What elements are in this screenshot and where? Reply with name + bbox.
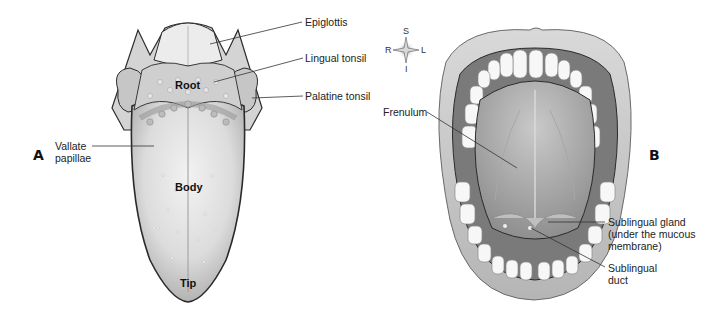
region-label-tip: Tip: [180, 277, 196, 289]
label-sublingual-duct-line2: duct: [608, 274, 657, 286]
anatomy-figure: A B Root Body Tip Epiglottis Lingual ton…: [0, 0, 701, 318]
panel-letter-a: A: [33, 147, 44, 163]
illustration-canvas: [0, 0, 701, 318]
label-palatine-tonsil: Palatine tonsil: [305, 90, 370, 102]
compass-right: R: [385, 45, 392, 55]
label-sublingual-gland-line3: membrane): [608, 240, 696, 252]
compass-rose: [393, 37, 419, 63]
compass-left: L: [421, 45, 426, 55]
label-vallate-papillae: Vallate papillae: [55, 140, 91, 164]
compass-superior: S: [403, 26, 409, 36]
label-epiglottis: Epiglottis: [305, 16, 348, 28]
label-vallate-papillae-line2: papillae: [55, 152, 91, 164]
label-sublingual-duct-line1: Sublingual: [608, 262, 657, 274]
open-mouth-illustration: [439, 28, 631, 300]
region-label-body: Body: [175, 181, 203, 193]
label-sublingual-gland: Sublingual gland (under the mucous membr…: [608, 216, 696, 252]
label-sublingual-gland-line1: Sublingual gland: [608, 216, 696, 228]
compass-inferior: I: [405, 64, 408, 74]
label-vallate-papillae-line1: Vallate: [55, 140, 91, 152]
label-lingual-tonsil: Lingual tonsil: [305, 52, 366, 64]
tongue-illustration: [112, 23, 262, 302]
label-frenulum: Frenulum: [383, 106, 427, 118]
panel-letter-b: B: [649, 147, 660, 163]
label-sublingual-duct: Sublingual duct: [608, 262, 657, 286]
region-label-root: Root: [175, 79, 200, 91]
label-sublingual-gland-line2: (under the mucous: [608, 228, 696, 240]
